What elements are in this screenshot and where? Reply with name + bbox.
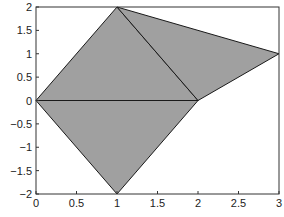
y-tick-label: −1 <box>19 141 32 153</box>
y-tick-label: 1.5 <box>17 24 32 36</box>
y-tick-label: −2 <box>19 188 32 200</box>
polygon-layer <box>36 7 279 194</box>
y-tick-label: 2 <box>26 1 32 13</box>
y-axis: −2−1.5−1−0.500.511.52 <box>10 1 39 200</box>
y-tick-label: 0 <box>26 95 32 107</box>
lower-triangle <box>36 101 198 195</box>
y-tick-label: 1 <box>26 48 32 60</box>
x-tick-label: 0 <box>33 197 39 209</box>
x-tick-label: 0.5 <box>69 197 84 209</box>
y-tick-label: 0.5 <box>17 71 32 83</box>
x-tick-label: 1.5 <box>150 197 165 209</box>
x-tick-label: 1 <box>114 197 120 209</box>
x-tick-label: 3 <box>276 197 282 209</box>
triangle-mesh-plot: 00.511.522.53 −2−1.5−1−0.500.511.52 <box>0 0 284 217</box>
y-tick-label: −0.5 <box>10 118 32 130</box>
x-tick-label: 2.5 <box>231 197 246 209</box>
y-tick-label: −1.5 <box>10 165 32 177</box>
x-tick-label: 2 <box>195 197 201 209</box>
